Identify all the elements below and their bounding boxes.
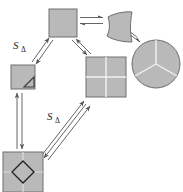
edge-top-square-to-curved-quad <box>80 18 103 24</box>
circle-three-sectors <box>132 40 180 88</box>
edge-top-square-to-quad-square <box>72 39 91 55</box>
plain-square <box>49 9 77 37</box>
label-s-delta-upper-subscript: Δ <box>21 45 26 54</box>
label-s-delta-upper-base: S <box>13 39 19 51</box>
curved-quadrilateral <box>107 12 132 42</box>
edge-diamond-square-to-small-square <box>17 93 22 149</box>
label-s-delta-lower: S Δ <box>47 110 60 125</box>
label-s-delta-upper: S Δ <box>13 39 26 54</box>
square-four-quadrants <box>86 57 126 97</box>
label-s-delta-lower-subscript: Δ <box>55 116 60 125</box>
arrow-forward-inner <box>48 106 90 160</box>
diagram-canvas: S Δ S Δ <box>0 0 183 192</box>
square-with-center-diamond <box>3 152 43 192</box>
small-square-with-corner-triangle <box>11 65 35 89</box>
label-s-delta-lower-base: S <box>47 110 53 122</box>
edge-small-square-to-top-square <box>32 38 53 64</box>
shape-transformation-diagram: S Δ S Δ <box>0 0 183 192</box>
